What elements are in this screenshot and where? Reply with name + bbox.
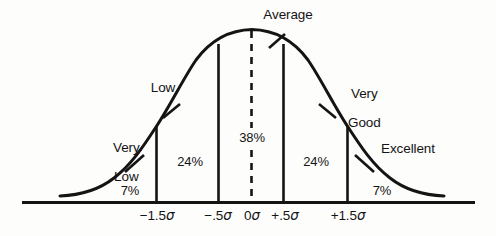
axis-tick-label-pos-1.5-sigma: +1.5σ xyxy=(317,208,379,224)
label-excellent: Excellent xyxy=(370,142,446,157)
axis-tick-pos-1.5-value: +1.5 xyxy=(331,208,357,223)
sigma-glyph-zero: σ xyxy=(251,207,259,223)
percent-excellent: 7% xyxy=(360,184,404,198)
sigma-glyph-pos-0.5: σ xyxy=(290,207,298,223)
label-average: Average xyxy=(248,8,328,23)
sigma-glyph-neg-1.5: σ xyxy=(166,207,174,223)
label-very-good-line1: Very xyxy=(351,86,378,101)
label-very-good-line2: Good xyxy=(348,115,381,130)
axis-tick-label-pos-0.5-sigma: +.5σ xyxy=(262,208,308,224)
axis-tick-neg-0.5-value: −.5 xyxy=(204,208,223,223)
percent-low: 24% xyxy=(168,155,212,169)
axis-tick-label-neg-1.5-sigma: −1.5σ xyxy=(126,208,188,224)
sigma-glyph-pos-1.5: σ xyxy=(357,207,365,223)
sigma-glyph-neg-0.5: σ xyxy=(223,207,231,223)
bell-curve-figure: Very Low Low Average Very Good Excellent… xyxy=(0,0,496,236)
bell-curve-drawing xyxy=(0,0,496,236)
axis-tick-neg-1.5-value: −1.5 xyxy=(140,208,166,223)
label-very-low-line1: Very xyxy=(113,140,140,155)
label-low: Low xyxy=(140,81,186,96)
label-very-low-line2: Low xyxy=(114,169,138,184)
percent-average: 38% xyxy=(230,131,274,145)
axis-tick-pos-0.5-value: +.5 xyxy=(271,208,290,223)
label-very-good: Very Good xyxy=(326,72,388,145)
percent-very-low: 7% xyxy=(108,184,152,198)
percent-very-good: 24% xyxy=(294,155,338,169)
